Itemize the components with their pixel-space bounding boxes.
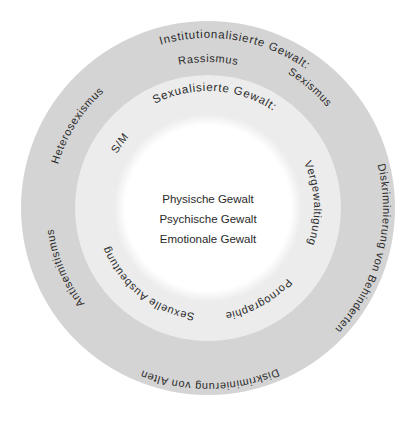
violence-ring-diagram: Institutionalisierte Gewalt: Rassismus S… <box>0 0 410 428</box>
center-item-emotionale: Emotionale Gewalt <box>160 233 257 245</box>
center-item-psychische: Psychische Gewalt <box>159 213 257 225</box>
center-item-physische: Physische Gewalt <box>162 193 254 205</box>
center-disk <box>114 114 302 302</box>
